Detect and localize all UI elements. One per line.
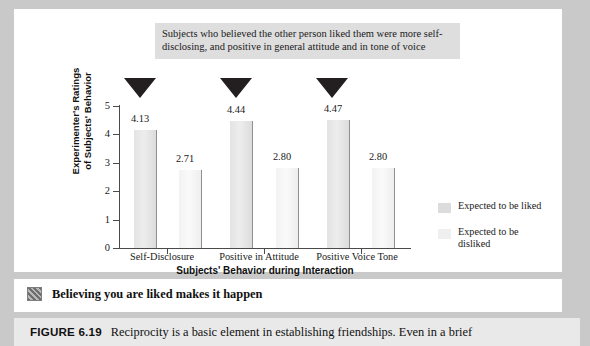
y-axis-title-wrap: Experimenter's Ratings of Subjects' Beha… xyxy=(76,101,92,251)
bar-value-voice-tone-disliked: 2.80 xyxy=(356,151,400,162)
y-tick-label-1: 1 xyxy=(98,214,110,225)
legend-label-liked: Expected to be liked xyxy=(458,200,544,212)
caption-headline: Believing you are liked makes it happen xyxy=(52,287,262,302)
bar-positive-attitude-disliked xyxy=(276,168,299,248)
caption-bar: Believing you are liked makes it happen xyxy=(14,279,562,312)
y-tick-label-3: 3 xyxy=(98,157,110,168)
y-axis-title: Experimenter's Ratings of Subjects' Beha… xyxy=(70,41,93,201)
x-category-label-3: Positive Voice Tone xyxy=(302,251,412,262)
bar-value-self-disclosure-disliked: 2.71 xyxy=(163,153,207,164)
bar-value-voice-tone-liked: 4.47 xyxy=(311,103,355,114)
x-category-label-1: Self-Disclosure xyxy=(110,251,214,262)
photo-thumbnail-icon xyxy=(27,287,42,301)
bar-self-disclosure-disliked xyxy=(179,170,202,248)
y-tick-label-0: 0 xyxy=(98,242,110,253)
y-tick-label-4: 4 xyxy=(98,128,110,139)
bar-self-disclosure-liked xyxy=(134,130,157,248)
figure-page: Subjects who believed the other person l… xyxy=(0,0,590,346)
bar-voice-tone-liked xyxy=(327,120,350,248)
bar-voice-tone-disliked xyxy=(372,168,395,248)
bar-chart: Subjects who believed the other person l… xyxy=(14,9,562,272)
bar-value-self-disclosure-liked: 4.13 xyxy=(118,113,162,124)
y-tick-label-5: 5 xyxy=(98,100,110,111)
bar-value-positive-attitude-disliked: 2.80 xyxy=(260,151,304,162)
annotation-callout: Subjects who believed the other person l… xyxy=(155,23,460,59)
bar-value-positive-attitude-liked: 4.44 xyxy=(214,104,258,115)
y-tick-label-2: 2 xyxy=(98,185,110,196)
x-category-label-2: Positive in Attitude xyxy=(204,251,314,262)
x-axis-title: Subjects' Behavior during Interaction xyxy=(119,265,411,276)
legend-swatch-liked-icon xyxy=(438,203,451,213)
legend-label-disliked: Expected to be disliked xyxy=(458,226,544,249)
bar-positive-attitude-liked xyxy=(230,121,253,248)
legend-swatch-disliked-icon xyxy=(438,229,451,239)
y-tick-0 xyxy=(113,248,120,249)
annotation-text: Subjects who believed the other person l… xyxy=(162,28,443,52)
figure-number: FIGURE 6.19 xyxy=(30,325,102,338)
marker-triangle-icon-2 xyxy=(220,78,252,98)
chart-card: Subjects who believed the other person l… xyxy=(14,9,562,272)
marker-triangle-icon-1 xyxy=(124,78,156,98)
bars-area xyxy=(119,105,411,248)
figure-caption-area: FIGURE 6.19Reciprocity is a basic elemen… xyxy=(14,318,580,346)
figure-caption: FIGURE 6.19Reciprocity is a basic elemen… xyxy=(30,325,472,340)
marker-triangle-icon-3 xyxy=(316,78,348,98)
figure-caption-text: Reciprocity is a basic element in establ… xyxy=(111,325,472,339)
